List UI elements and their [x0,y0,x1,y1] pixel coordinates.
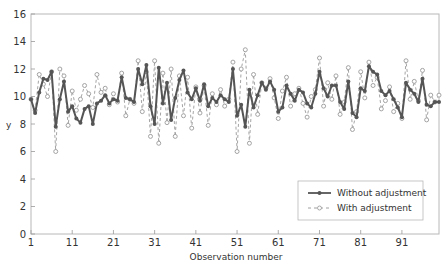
data-point [355,115,359,119]
data-point [252,106,256,110]
data-point [45,78,49,82]
data-point [268,79,272,83]
data-point [186,90,190,94]
data-point [173,134,177,138]
data-point [165,121,169,125]
data-point [326,81,330,85]
data-point [169,118,173,122]
data-point [408,97,412,101]
data-point [87,92,91,96]
data-point [198,111,202,115]
data-point [404,81,408,85]
data-point [206,104,210,108]
data-point [346,79,350,83]
data-point [322,104,326,108]
data-point [239,67,243,71]
data-point [186,75,190,79]
data-point [153,59,157,63]
data-point [29,97,33,101]
data-point [346,66,350,70]
data-point [70,104,74,108]
data-point [289,104,293,108]
x-tick-label: 21 [107,237,120,248]
data-point [247,141,251,145]
x-tick-label: 41 [189,237,202,248]
data-point [350,111,354,115]
data-point [388,89,392,93]
data-point [371,70,375,74]
data-point [421,77,425,81]
data-point [66,110,70,114]
data-point [317,70,321,74]
chart: 0246810121416 1112131415161718191 y Obse… [0,0,446,267]
data-point [359,86,363,90]
data-point [416,100,420,104]
data-point [173,96,177,100]
data-point [247,88,251,92]
data-point [62,79,66,83]
data-point [309,95,313,99]
data-point [37,73,41,77]
data-point [367,60,371,64]
data-point [313,92,317,96]
data-point [412,79,416,83]
data-point [223,97,227,101]
x-tick-label: 61 [272,237,285,248]
data-point [103,93,107,97]
data-point [231,60,235,64]
data-point [276,110,280,114]
legend-label: Without adjustment [337,188,427,198]
data-point [58,67,62,71]
data-point [317,56,321,60]
data-point [326,95,330,99]
data-point [334,84,338,88]
data-point [256,112,260,116]
open-circle-marker-icon [318,206,322,210]
data-point [379,107,383,111]
data-point [285,84,289,88]
data-point [190,126,194,130]
data-point [103,86,107,90]
data-point [169,67,173,71]
data-point [219,93,223,97]
data-point [301,90,305,94]
data-point [367,64,371,68]
data-point [272,88,276,92]
data-point [210,92,214,96]
data-point [194,86,198,90]
x-tick-label: 71 [313,237,326,248]
data-point [231,67,235,71]
data-point [425,103,429,107]
data-point [95,73,99,77]
data-point [239,103,243,107]
data-point [293,99,297,103]
data-point [388,85,392,89]
data-point [99,90,103,94]
y-tick-label: 2 [20,201,26,212]
data-point [107,101,111,105]
data-point [437,100,441,104]
data-point [83,107,87,111]
legend: Without adjustment With adjustment [298,181,427,220]
data-point [91,106,95,110]
data-point [379,89,383,93]
data-point [371,84,375,88]
data-point [383,99,387,103]
data-point [285,75,289,79]
data-point [301,101,305,105]
data-point [396,106,400,110]
data-point [383,93,387,97]
data-point [124,114,128,118]
data-point [50,70,54,74]
data-point [421,68,425,72]
data-point [219,88,223,92]
data-point [363,89,367,93]
y-axis: 0246810121416 [13,9,35,240]
data-point [54,125,58,129]
data-point [437,93,441,97]
data-point [33,111,37,115]
y-axis-label: y [6,120,12,130]
data-point [136,67,140,71]
x-tick-label: 31 [148,237,161,248]
data-point [264,88,268,92]
